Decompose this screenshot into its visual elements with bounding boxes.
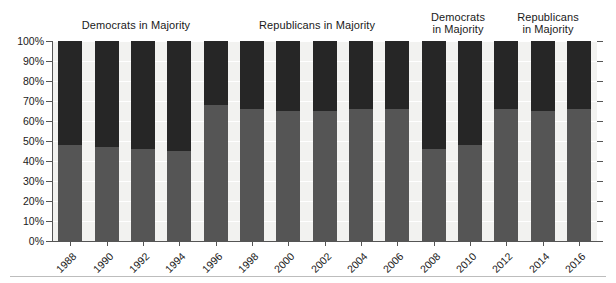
bar-segment-upper (531, 41, 555, 111)
bar-segment-lower (167, 151, 191, 241)
bar-segment-upper (204, 41, 228, 105)
bar-segment-upper (349, 41, 373, 109)
y-tick-right (597, 181, 603, 182)
footer-divider (10, 276, 606, 277)
bar-1996 (204, 41, 228, 241)
bar-segment-lower (240, 109, 264, 241)
bar-segment-upper (494, 41, 518, 109)
annotation-republicans-majority-1: Republicans in Majority (222, 20, 412, 32)
y-axis-label: 90% (0, 55, 44, 67)
bar-2008 (422, 41, 446, 241)
x-axis-label-2016: 2016 (552, 250, 587, 283)
bar-1992 (131, 41, 155, 241)
bar-segment-upper (167, 41, 191, 151)
y-tick (46, 41, 52, 42)
y-axis-label: 10% (0, 215, 44, 227)
y-tick-right (597, 81, 603, 82)
bar-segment-upper (458, 41, 482, 145)
x-axis-label-1992: 1992 (116, 250, 151, 283)
y-axis-label: 20% (0, 195, 44, 207)
y-tick (46, 81, 52, 82)
bar-2004 (349, 41, 373, 241)
bar-segment-upper (567, 41, 591, 109)
bar-segment-lower (204, 105, 228, 241)
bar-segment-lower (131, 149, 155, 241)
bar-segment-lower (567, 109, 591, 241)
annotation-democrats-majority-2: Democrats in Majority (414, 12, 502, 35)
x-axis-label-2008: 2008 (407, 250, 442, 283)
bar-segment-lower (95, 147, 119, 241)
y-tick (46, 221, 52, 222)
x-axis-label-1998: 1998 (225, 250, 260, 283)
bar-segment-upper (131, 41, 155, 149)
bar-segment-lower (313, 111, 337, 241)
y-tick (46, 121, 52, 122)
bar-2014 (531, 41, 555, 241)
x-axis-label-2002: 2002 (298, 250, 333, 283)
y-tick-right (597, 61, 603, 62)
bar-segment-lower (385, 109, 409, 241)
y-axis-label: 30% (0, 175, 44, 187)
bar-2010 (458, 41, 482, 241)
bar-1990 (95, 41, 119, 241)
y-tick (46, 61, 52, 62)
x-axis-label-2000: 2000 (261, 250, 296, 283)
x-axis-label-2010: 2010 (443, 250, 478, 283)
bar-segment-upper (422, 41, 446, 149)
bar-2012 (494, 41, 518, 241)
y-tick (46, 181, 52, 182)
x-axis-label-2014: 2014 (516, 250, 551, 283)
y-axis-label: 0% (0, 235, 44, 247)
bar-segment-lower (276, 111, 300, 241)
annotation-democrats-majority-1: Democrats in Majority (46, 20, 226, 32)
x-tick (361, 241, 362, 246)
y-axis-label: 70% (0, 95, 44, 107)
x-tick (506, 241, 507, 246)
x-tick (325, 241, 326, 246)
x-axis-label-1988: 1988 (43, 250, 78, 283)
bar-segment-upper (58, 41, 82, 145)
annotation-republicans-majority-2: Republicans in Majority (500, 12, 596, 35)
y-tick-right (597, 121, 603, 122)
y-tick (46, 201, 52, 202)
bar-segment-upper (313, 41, 337, 111)
x-axis-label-2006: 2006 (370, 250, 405, 283)
x-tick (579, 241, 580, 246)
bar-segment-lower (58, 145, 82, 241)
x-tick (179, 241, 180, 246)
bar-segment-lower (494, 109, 518, 241)
x-tick (543, 241, 544, 246)
y-tick-right (597, 201, 603, 202)
x-tick (397, 241, 398, 246)
x-tick (107, 241, 108, 246)
y-tick-right (597, 141, 603, 142)
y-tick (46, 241, 52, 242)
x-tick (70, 241, 71, 246)
x-axis-label-1994: 1994 (152, 250, 187, 283)
y-axis-label: 50% (0, 135, 44, 147)
stacked-bar-chart: Democrats in Majority Republicans in Maj… (0, 0, 616, 283)
y-tick (46, 141, 52, 142)
x-tick (143, 241, 144, 246)
bar-2006 (385, 41, 409, 241)
x-tick (434, 241, 435, 246)
y-tick (46, 161, 52, 162)
x-axis-label-1996: 1996 (189, 250, 224, 283)
bar-2000 (276, 41, 300, 241)
bar-segment-lower (349, 109, 373, 241)
y-tick-right (597, 241, 603, 242)
bar-segment-lower (531, 111, 555, 241)
y-axis-label: 40% (0, 155, 44, 167)
x-axis-label-2012: 2012 (479, 250, 514, 283)
y-axis-label: 80% (0, 75, 44, 87)
bar-segment-upper (240, 41, 264, 109)
x-axis-label-2004: 2004 (334, 250, 369, 283)
bar-segment-lower (422, 149, 446, 241)
y-axis-line (52, 41, 53, 241)
y-tick-right (597, 161, 603, 162)
bar-1994 (167, 41, 191, 241)
y-axis-label: 100% (0, 35, 44, 47)
bar-segment-upper (95, 41, 119, 147)
bar-1998 (240, 41, 264, 241)
bar-1988 (58, 41, 82, 241)
